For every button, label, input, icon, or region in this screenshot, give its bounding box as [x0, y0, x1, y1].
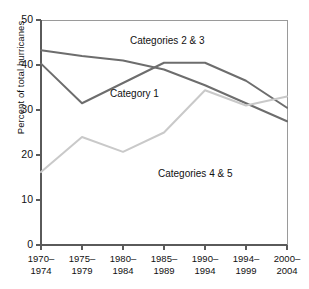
chart-series-lines — [41, 50, 287, 172]
y-axis-tick-label: 20 — [7, 148, 33, 160]
x-tick-label-line1: 2000– — [261, 253, 309, 265]
x-axis-tick-label: 2000–2004 — [261, 253, 309, 277]
series-line-3 — [41, 90, 287, 172]
series-label-1: Categories 2 & 3 — [130, 35, 205, 46]
y-axis-tick-label: 0 — [7, 238, 33, 250]
y-axis-tick-label: 30 — [7, 103, 33, 115]
series-label-2: Category 1 — [110, 88, 159, 99]
series-label-3: Categories 4 & 5 — [158, 168, 233, 179]
series-line-1 — [41, 50, 287, 121]
y-axis-tick-label: 40 — [7, 58, 33, 70]
hurricane-category-line-chart: Percent of total hurricanes 01020304050 … — [0, 0, 309, 289]
y-axis-tick-label: 10 — [7, 193, 33, 205]
x-tick-label-line2: 2004 — [261, 265, 309, 277]
y-axis-tick-label: 50 — [7, 13, 33, 25]
